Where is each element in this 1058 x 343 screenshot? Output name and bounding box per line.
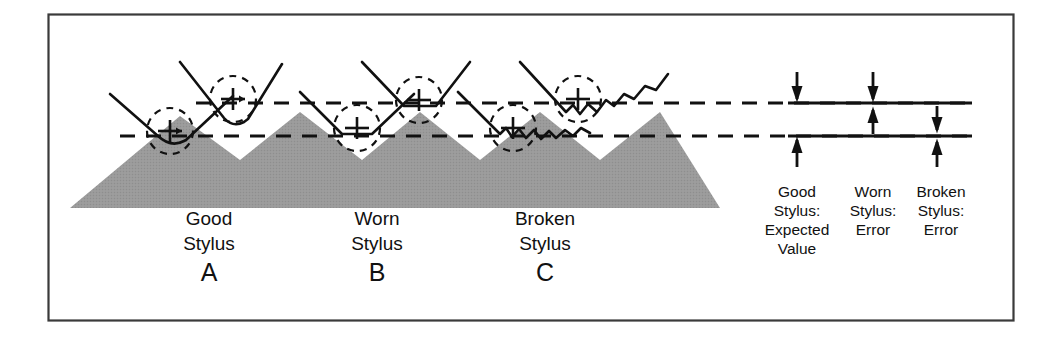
good-measurement-line2: Stylus:	[774, 202, 821, 219]
worn-stylus-label-line1: Worn	[354, 208, 399, 229]
figure-root: Good Stylus A Worn Stylus B Broken Stylu…	[0, 0, 1058, 343]
broken-stylus-label-line2: Stylus	[519, 233, 571, 254]
worn-stylus-letter: B	[369, 258, 386, 286]
good-stylus-letter: A	[201, 258, 218, 286]
stylus-measurement-diagram: Good Stylus A Worn Stylus B Broken Stylu…	[0, 0, 1058, 343]
good-stylus-label-line1: Good	[186, 208, 232, 229]
good-measurement-line3: Expected	[765, 221, 830, 238]
good-measurement-line4: Value	[778, 240, 817, 257]
good-measurement-line1: Good	[778, 183, 816, 200]
broken-measurement-line1: Broken	[916, 183, 965, 200]
broken-stylus-label-line1: Broken	[515, 208, 575, 229]
broken-measurement-line2: Stylus:	[918, 202, 965, 219]
worn-measurement-line2: Stylus:	[850, 202, 897, 219]
broken-measurement-line3: Error	[924, 221, 958, 238]
good-stylus-label-line2: Stylus	[183, 233, 235, 254]
worn-stylus-label-line2: Stylus	[351, 233, 403, 254]
worn-measurement-line1: Worn	[855, 183, 892, 200]
worn-measurement-line3: Error	[856, 221, 890, 238]
broken-stylus-letter: C	[536, 258, 554, 286]
